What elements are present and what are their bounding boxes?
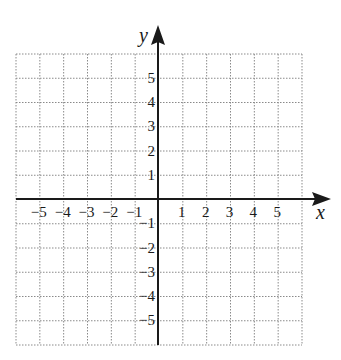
x-tick-label: −3	[79, 204, 95, 220]
x-tick-label: 4	[250, 204, 258, 220]
x-tick-label: 2	[202, 204, 210, 220]
x-tick-label: −5	[31, 204, 47, 220]
x-axis-label: x	[315, 201, 325, 223]
y-tick-label: 1	[148, 167, 156, 183]
y-tick-label: −4	[139, 288, 155, 304]
x-tick-label: 5	[273, 204, 281, 220]
y-tick-label: 4	[148, 94, 156, 110]
y-tick-label: −5	[139, 312, 155, 328]
y-tick-label: 3	[148, 118, 156, 134]
y-tick-label: 2	[148, 143, 156, 159]
x-tick-label: −2	[102, 204, 118, 220]
x-tick-label: 3	[226, 204, 234, 220]
coordinate-plane: x y −5−4−3−2−11234554321−1−2−3−4−5	[0, 0, 341, 360]
y-tick-label: −1	[139, 215, 155, 231]
x-tick-label: −4	[55, 204, 71, 220]
y-axis-label: y	[137, 24, 148, 47]
y-axis-arrow-icon	[151, 25, 165, 45]
y-tick-label: 5	[148, 70, 156, 86]
y-tick-label: −2	[139, 240, 155, 256]
x-tick-label: 1	[178, 204, 186, 220]
y-tick-label: −3	[139, 264, 155, 280]
